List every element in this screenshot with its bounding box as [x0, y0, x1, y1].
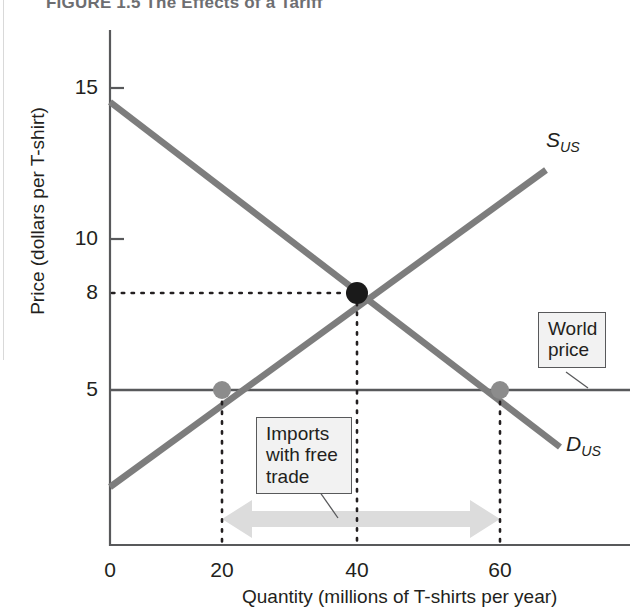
y-axis-title: Price (dollars per T-shirt) [27, 107, 48, 315]
point-supply-at-world-price [213, 381, 231, 399]
figure-root: FIGURE 1.5 The Effects of a Tariff [0, 0, 630, 615]
supply-curve-label-base: S [546, 128, 560, 151]
imports-callout: Imports with free trade [256, 417, 352, 494]
imports-span-arrow [222, 500, 500, 538]
supply-curve-label-sub: US [560, 139, 580, 155]
demand-curve-label-base: D [566, 432, 581, 455]
x-axis-title: Quantity (millions of T-shirts per year) [242, 586, 557, 608]
y-tick-label-15: 15 [46, 75, 98, 99]
y-tick-label-5: 5 [46, 377, 98, 401]
demand-curve-label-sub: US [581, 443, 601, 459]
x-tick-label-0: 0 [88, 558, 132, 582]
demand-curve-line [110, 102, 560, 447]
point-demand-at-world-price [491, 381, 509, 399]
world-price-callout: World price [538, 312, 606, 368]
supply-curve-label: SUS [546, 128, 580, 155]
y-axis-title-wrapper: Price (dollars per T-shirt) [27, 81, 49, 341]
world-price-leader-line [566, 372, 588, 388]
y-tick-label-10: 10 [46, 226, 98, 250]
y-tick-label-8: 8 [46, 280, 98, 304]
x-tick-label-40: 40 [335, 558, 379, 582]
point-no-trade-equilibrium [346, 282, 368, 304]
x-tick-label-20: 20 [200, 558, 244, 582]
demand-curve-label: DUS [566, 432, 601, 459]
x-tick-label-60: 60 [478, 558, 522, 582]
